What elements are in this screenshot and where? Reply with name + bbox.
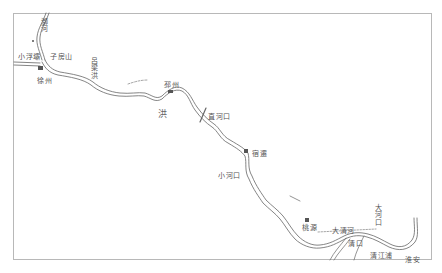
label-hong: 洪 xyxy=(158,110,168,119)
label-su-qian: 宿遷 xyxy=(252,151,267,158)
taoyuan-marker xyxy=(305,218,309,222)
pizhou-marker xyxy=(168,90,173,93)
label-da-he-kou: 大河口 xyxy=(374,205,382,227)
xuzhou-marker xyxy=(38,66,43,70)
xiaofuba-marker xyxy=(32,40,34,42)
label-tao-yuan: 桃源 xyxy=(302,225,317,232)
label-zi-fang-shan: 子房山 xyxy=(50,54,73,61)
label-xuzhou: 徐州 xyxy=(37,78,52,85)
label-zhi-he-kou: 直河口 xyxy=(208,114,231,121)
river-map: 溮河 小浮壩 子房山 徐州 呂梁洪 邳州 洪 直河口 宿遷 小河口 桃源 大清河… xyxy=(0,0,442,273)
label-xu-he: 溮河 xyxy=(40,19,48,34)
label-huai-an: 淮安 xyxy=(405,257,420,264)
label-da-qing-he: 大清河 xyxy=(332,228,355,235)
label-qing-kou: 清口 xyxy=(348,241,363,248)
label-qing-jiang-pu: 清江浦 xyxy=(370,253,393,260)
label-pizhou: 邳州 xyxy=(164,82,179,89)
label-lu-liang-hong: 呂梁洪 xyxy=(90,58,98,80)
town-markers xyxy=(0,0,442,273)
suqian-marker xyxy=(244,149,248,153)
label-xiao-he-kou: 小河口 xyxy=(218,173,241,180)
label-xiao-fu-ba: 小浮壩 xyxy=(18,54,41,61)
